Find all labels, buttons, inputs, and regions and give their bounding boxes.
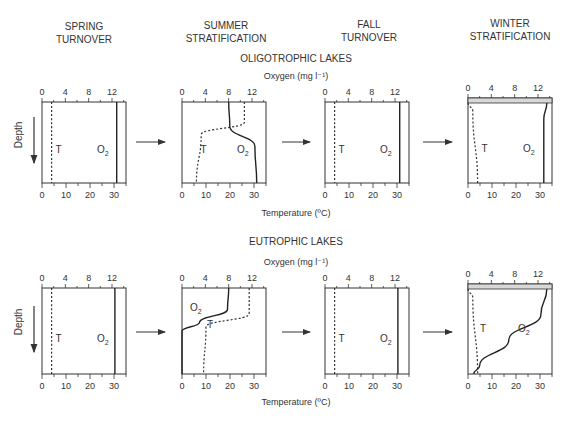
depth-indicator-oligotrophic: Depth — [13, 117, 34, 163]
oxygen-tick-label: 12 — [247, 273, 257, 283]
season-headers: SPRING TURNOVER SUMMER STRATIFICATION FA… — [56, 18, 550, 45]
temperature-profile — [204, 288, 250, 374]
temperature-axis-label-oligotrophic: Temperature (ºC) — [262, 208, 331, 218]
temperature-axis: 0102030 — [39, 183, 126, 200]
temperature-profile — [468, 289, 478, 374]
temperature-tick-label: 30 — [249, 381, 259, 391]
oxygen-axis-label-eutrophic: Oxygen (mg l⁻¹) — [264, 257, 329, 267]
oxygen-tick-label: 4 — [489, 269, 494, 279]
temperature-tick-label: 0 — [179, 381, 184, 391]
temperature-profile — [196, 102, 244, 183]
temperature-tick-label: 20 — [368, 190, 378, 200]
panel-frame — [42, 102, 126, 183]
oxygen-curve-label: O2 — [97, 333, 109, 346]
oxygen-tick-label: 12 — [247, 87, 257, 97]
temperature-tick-label: 20 — [225, 381, 235, 391]
temperature-tick-label: 10 — [61, 381, 71, 391]
panel-frame — [325, 288, 409, 374]
oxygen-tick-label: 4 — [63, 87, 68, 97]
oxygen-profile — [544, 103, 547, 183]
oxygen-tick-label: 12 — [107, 273, 117, 283]
temperature-tick-label: 10 — [61, 190, 71, 200]
temperature-tick-label: 10 — [487, 190, 497, 200]
oxygen-tick-label: 0 — [465, 83, 470, 93]
oxygen-axis-label-oligotrophic: Oxygen (mg l⁻¹) — [264, 71, 329, 81]
profile-panel-eutrophic-1: 048120102030TO2 — [39, 273, 126, 391]
row-title-eutrophic: EUTROPHIC LAKES — [249, 236, 343, 247]
oxygen-profile — [182, 288, 229, 374]
temperature-tick-label: 10 — [487, 381, 497, 391]
oxygen-curve-label: O2 — [518, 323, 530, 336]
header-winter-line1: WINTER — [490, 18, 529, 29]
oxygen-tick-label: 12 — [533, 269, 543, 279]
temperature-curve-label: T — [56, 144, 62, 155]
temperature-profile — [468, 103, 478, 183]
profile-panel-eutrophic-3: 048120102030TO2 — [322, 273, 409, 391]
oxygen-tick-label: 8 — [512, 269, 517, 279]
temperature-axis: 0102030 — [179, 374, 266, 391]
temperature-tick-label: 20 — [225, 190, 235, 200]
oxygen-tick-label: 8 — [369, 273, 374, 283]
temperature-curve-label: T — [482, 143, 488, 154]
profile-panel-oligotrophic-1: 048120102030TO2 — [39, 87, 126, 200]
panel-frame — [42, 288, 126, 374]
depth-label: Depth — [13, 309, 24, 336]
oxygen-curve-label: O2 — [97, 144, 109, 157]
oxygen-tick-label: 8 — [86, 273, 91, 283]
oxygen-axis: 04812 — [322, 273, 406, 288]
profile-panel-eutrophic-4: 048120102030TO2 — [465, 269, 552, 391]
oxygen-tick-label: 4 — [489, 83, 494, 93]
temperature-axis: 0102030 — [39, 374, 126, 391]
temperature-curve-label: T — [480, 323, 486, 334]
temperature-tick-label: 10 — [201, 381, 211, 391]
panel-frame — [182, 288, 266, 374]
oxygen-tick-label: 0 — [179, 273, 184, 283]
temperature-tick-label: 0 — [322, 190, 327, 200]
oxygen-axis: 04812 — [465, 269, 549, 284]
oxygen-tick-label: 0 — [39, 273, 44, 283]
oxygen-axis: 04812 — [179, 273, 263, 288]
temperature-tick-label: 0 — [39, 190, 44, 200]
temperature-tick-label: 30 — [535, 381, 545, 391]
temperature-axis: 0102030 — [465, 183, 552, 200]
oxygen-axis: 04812 — [465, 83, 549, 98]
lake-stratification-diagram: SPRING TURNOVER SUMMER STRATIFICATION FA… — [0, 0, 570, 421]
temperature-axis: 0102030 — [322, 374, 409, 391]
header-winter-line2: STRATIFICATION — [470, 31, 551, 42]
header-spring-line2: TURNOVER — [56, 34, 112, 45]
panel-frame — [468, 98, 552, 183]
temperature-tick-label: 10 — [344, 190, 354, 200]
oxygen-tick-label: 0 — [179, 87, 184, 97]
temperature-tick-label: 20 — [511, 381, 521, 391]
temperature-axis: 0102030 — [322, 183, 409, 200]
oxygen-tick-label: 8 — [226, 87, 231, 97]
oxygen-tick-label: 4 — [203, 87, 208, 97]
oxygen-tick-label: 12 — [390, 87, 400, 97]
oxygen-tick-label: 0 — [322, 273, 327, 283]
oxygen-tick-label: 12 — [390, 273, 400, 283]
oxygen-tick-label: 0 — [465, 269, 470, 279]
oxygen-tick-label: 0 — [322, 87, 327, 97]
oxygen-tick-label: 0 — [39, 87, 44, 97]
header-spring-line1: SPRING — [65, 21, 104, 32]
temperature-curve-label: T — [200, 144, 206, 155]
header-fall-line1: FALL — [357, 19, 381, 30]
temperature-curve-label: T — [56, 333, 62, 344]
temperature-tick-label: 0 — [322, 381, 327, 391]
profile-panel-oligotrophic-3: 048120102030TO2 — [322, 87, 409, 200]
oxygen-tick-label: 8 — [369, 87, 374, 97]
temperature-tick-label: 30 — [392, 381, 402, 391]
temperature-axis: 0102030 — [179, 183, 266, 200]
temperature-tick-label: 20 — [85, 381, 95, 391]
temperature-axis: 0102030 — [465, 374, 552, 391]
temperature-curve-label: T — [207, 319, 213, 330]
oxygen-tick-label: 8 — [512, 83, 517, 93]
temperature-tick-label: 20 — [511, 190, 521, 200]
profile-panel-oligotrophic-2: 048120102030TO2 — [179, 87, 266, 200]
temperature-tick-label: 30 — [249, 190, 259, 200]
oxygen-tick-label: 4 — [346, 87, 351, 97]
temperature-tick-label: 30 — [109, 190, 119, 200]
ice-cover — [468, 284, 552, 289]
oxygen-tick-label: 4 — [346, 273, 351, 283]
row-title-oligotrophic: OLIGOTROPHIC LAKES — [240, 53, 352, 64]
